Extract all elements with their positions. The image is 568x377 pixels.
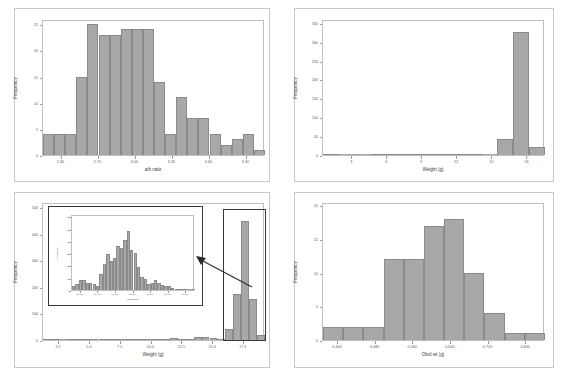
- x-tick: [421, 156, 422, 159]
- x-tick: [172, 156, 173, 159]
- x-tick: [488, 341, 489, 344]
- y-tick-label: 10: [20, 102, 38, 106]
- x-axis-title-top-right: Weight (g): [422, 167, 443, 172]
- x-tick-label: 2.70: [94, 160, 101, 164]
- x-tick: [58, 341, 59, 344]
- x-tick: [375, 341, 376, 344]
- bar: [254, 150, 265, 155]
- inset-y-tick-label: 10: [59, 278, 69, 280]
- bar: [110, 35, 121, 155]
- plot-area-top-right: [322, 20, 544, 156]
- y-tick: [320, 24, 323, 25]
- bar: [505, 333, 525, 340]
- x-tick-label: 12.5: [178, 345, 185, 349]
- y-tick-label: 20: [300, 204, 318, 208]
- x-tick-label: 9: [420, 160, 422, 164]
- y-tick: [40, 104, 43, 105]
- y-tick: [40, 314, 43, 315]
- x-tick: [526, 156, 527, 159]
- figure-canvas: 05101520252.402.703.003.303.603.90a/b ra…: [0, 0, 568, 377]
- y-tick-label: 400: [20, 233, 38, 237]
- y-tick-label: 25: [20, 23, 38, 27]
- inset-bars: [72, 216, 193, 290]
- bar: [243, 134, 254, 155]
- y-tick: [320, 206, 323, 207]
- y-tick: [320, 341, 323, 342]
- x-tick-label: 0.800: [520, 345, 530, 349]
- bar: [178, 339, 186, 340]
- bar: [114, 339, 122, 340]
- x-tick-label: 15: [489, 160, 493, 164]
- bar: [198, 118, 209, 155]
- y-tick: [40, 235, 43, 236]
- bar: [386, 154, 402, 155]
- bar: [323, 154, 339, 155]
- inset-plot-area: [71, 215, 194, 291]
- bars-bottom-right: [323, 204, 543, 340]
- bar: [165, 134, 176, 155]
- x-axis-title-bottom-right: Obol wt (g): [422, 352, 444, 357]
- bar: [202, 337, 210, 340]
- bar: [529, 147, 545, 155]
- inset-y-tick: [69, 217, 71, 218]
- x-tick-label: 7.5: [117, 345, 122, 349]
- bar: [43, 134, 54, 155]
- x-tick: [243, 341, 244, 344]
- bar: [186, 339, 194, 340]
- inset-y-axis-title: Frequency: [56, 247, 59, 258]
- y-tick: [320, 274, 323, 275]
- y-tick: [320, 80, 323, 81]
- inset-y-tick-label: 30: [59, 253, 69, 255]
- y-tick-label: 100: [300, 116, 318, 120]
- inset-x-axis-title: Weight (g): [127, 298, 138, 301]
- x-tick-label: 3.00: [131, 160, 138, 164]
- bars-top-right: [323, 21, 543, 155]
- y-tick-label: 500: [20, 206, 38, 210]
- y-tick: [320, 62, 323, 63]
- inset-x-tick-label: 18.500: [182, 293, 189, 295]
- inset-y-tick: [69, 279, 71, 280]
- inset-x-tick-label: 17.500: [146, 293, 153, 295]
- inset-x-tick: [168, 291, 169, 293]
- y-tick-label: 300: [300, 41, 318, 45]
- y-tick-label: 15: [20, 76, 38, 80]
- bar: [146, 339, 154, 340]
- y-axis-title-bottom-left: Frequency: [13, 261, 18, 283]
- x-tick: [89, 341, 90, 344]
- x-tick: [351, 156, 352, 159]
- x-tick: [98, 156, 99, 159]
- y-tick: [40, 51, 43, 52]
- bar: [122, 339, 130, 340]
- bar: [404, 259, 424, 340]
- x-tick-label: 0.640: [445, 345, 455, 349]
- bar: [343, 327, 363, 340]
- bar: [176, 97, 187, 155]
- x-tick-label: 18: [524, 160, 528, 164]
- bar: [444, 219, 464, 340]
- bar: [355, 154, 371, 155]
- x-tick: [209, 156, 210, 159]
- bar: [132, 29, 143, 155]
- x-tick: [412, 341, 413, 344]
- inset-y-tick-label: 20: [59, 265, 69, 267]
- y-tick: [40, 341, 43, 342]
- bar: [210, 134, 221, 155]
- bar: [221, 145, 232, 155]
- y-tick-label: 20: [20, 49, 38, 53]
- bar: [59, 339, 67, 340]
- x-tick: [386, 156, 387, 159]
- inset-y-tick: [69, 254, 71, 255]
- bar: [402, 154, 418, 155]
- inset-x-tick-label: 18.000: [164, 293, 171, 295]
- x-tick: [491, 156, 492, 159]
- y-tick: [40, 261, 43, 262]
- bar: [232, 139, 243, 155]
- y-tick-label: 100: [20, 312, 38, 316]
- inset-y-tick-label: 0: [59, 290, 69, 292]
- x-tick-label: 2.5: [55, 345, 60, 349]
- x-tick-label: 0.560: [408, 345, 418, 349]
- inset-x-tick-label: 17.000: [129, 293, 136, 295]
- y-tick: [320, 43, 323, 44]
- plot-area-bottom-right: [322, 203, 544, 341]
- bar: [339, 154, 355, 155]
